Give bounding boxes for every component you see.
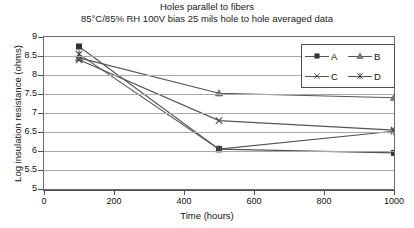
data-point-triangle (357, 53, 363, 58)
y-axis-tick-label: 7 (3, 108, 37, 117)
legend-entry-A: A (305, 51, 348, 62)
gridline (44, 94, 394, 95)
data-point-star (357, 73, 362, 79)
y-axis-tick-label: 8.5 (3, 51, 37, 60)
y-axis-tick-label: 8 (3, 70, 37, 79)
x-axis-tick-label: 400 (162, 197, 206, 206)
x-axis-tick (394, 190, 395, 195)
y-axis-tick-label: 6.5 (3, 127, 37, 136)
legend-marker-star-icon (348, 71, 372, 81)
y-axis-tick-label: 5.5 (3, 165, 37, 174)
x-axis-tick-label: 200 (92, 197, 136, 206)
chart-subtitle: 85°C/85% RH 100V bias 25 mils hole to ho… (0, 13, 414, 25)
legend-marker-square-icon (305, 51, 329, 61)
x-axis-tick-label: 600 (232, 197, 276, 206)
legend-entry-C: C (305, 71, 348, 82)
x-axis-tick (254, 190, 255, 195)
gridline (44, 132, 394, 133)
data-point-square (76, 44, 82, 50)
chart-title-block: Holes parallel to fibers 85°C/85% RH 100… (0, 1, 414, 25)
y-axis-tick-label: 6 (3, 146, 37, 155)
legend-label: A (331, 51, 337, 62)
x-axis-tick (114, 190, 115, 195)
x-axis-tick (184, 190, 185, 195)
legend-marker-triangle-icon (348, 51, 372, 61)
legend-entry-D: D (348, 71, 391, 82)
legend-label: C (331, 71, 338, 82)
chart-figure: Holes parallel to fibers 85°C/85% RH 100… (0, 0, 414, 228)
y-axis-tick-label: 5 (3, 184, 37, 193)
legend-marker-svg (348, 71, 372, 81)
legend-marker-svg (305, 51, 329, 61)
data-point-square (314, 53, 319, 58)
y-axis-labels: 55.566.577.588.59 (0, 0, 37, 228)
y-axis-tick-label: 9 (3, 32, 37, 41)
chart-legend: ABCD (301, 44, 395, 88)
x-axis-tick-label: 800 (302, 197, 346, 206)
legend-label: B (374, 51, 380, 62)
legend-marker-cross-icon (305, 71, 329, 81)
gridline (44, 113, 394, 114)
gridline (44, 151, 394, 152)
data-point-cross (314, 73, 319, 78)
x-axis-title: Time (hours) (0, 210, 414, 221)
legend-entry-B: B (348, 51, 391, 62)
y-axis-tick-label: 7.5 (3, 89, 37, 98)
legend-marker-svg (305, 71, 329, 81)
chart-title: Holes parallel to fibers (0, 1, 414, 13)
legend-label: D (374, 71, 381, 82)
x-axis-tick (324, 190, 325, 195)
x-axis-tick-label: 1000 (372, 197, 414, 206)
x-axis-tick (44, 190, 45, 195)
x-axis-tick-label: 0 (22, 197, 66, 206)
gridline (44, 170, 394, 171)
legend-marker-svg (348, 51, 372, 61)
x-axis-line (43, 190, 395, 191)
